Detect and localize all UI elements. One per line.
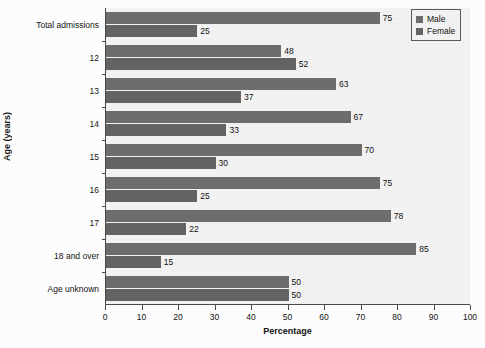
- bar-value-male-2: 63: [338, 79, 349, 89]
- x-axis-tick-10: [470, 305, 471, 310]
- y-axis-label-7: 18 and over: [54, 251, 99, 261]
- legend-label-male: Male: [427, 14, 445, 24]
- y-axis-label-0: Total admissions: [36, 20, 99, 30]
- y-axis-title: Age (years): [2, 112, 18, 161]
- bar-value-male-5: 75: [382, 178, 393, 188]
- bar-value-male-8: 50: [291, 277, 302, 287]
- y-axis-tick-3: [102, 140, 106, 141]
- x-axis-tick-7: [361, 305, 362, 310]
- bar-value-female-4: 30: [218, 158, 229, 168]
- bar-male-8: [106, 276, 289, 288]
- x-axis-tick-1: [142, 305, 143, 310]
- x-axis-tick-label-6: 60: [319, 312, 328, 322]
- y-axis-label-4: 15: [90, 152, 99, 162]
- legend-swatch-female-icon: [416, 28, 423, 35]
- y-axis-tick-6: [102, 239, 106, 240]
- bar-value-male-3: 67: [353, 112, 364, 122]
- bar-value-male-1: 48: [283, 46, 294, 56]
- bar-female-4: [106, 157, 216, 169]
- y-axis-label-3: 14: [90, 119, 99, 129]
- bar-value-female-8: 50: [291, 290, 302, 300]
- bar-male-7: [106, 243, 416, 255]
- bar-value-female-5: 25: [199, 191, 210, 201]
- bar-value-female-7: 15: [163, 257, 174, 267]
- bar-value-male-0: 75: [382, 13, 393, 23]
- x-axis-tick-6: [324, 305, 325, 310]
- bar-value-male-7: 85: [418, 244, 429, 254]
- bar-male-3: [106, 111, 351, 123]
- x-axis-tick-3: [215, 305, 216, 310]
- bar-female-1: [106, 58, 296, 70]
- x-axis-title: Percentage: [105, 326, 470, 336]
- x-axis-tick-5: [288, 305, 289, 310]
- y-axis-label-2: 13: [90, 86, 99, 96]
- x-axis-tick-label-4: 40: [246, 312, 255, 322]
- legend-item-female: Female: [416, 25, 455, 37]
- bar-male-0: [106, 12, 380, 24]
- y-axis-tick-0: [102, 41, 106, 42]
- x-axis-tick-8: [397, 305, 398, 310]
- bar-chart-figure: Age (years) Total admissions121314151617…: [0, 0, 485, 348]
- bar-value-male-6: 78: [393, 211, 404, 221]
- y-axis-tick-2: [102, 107, 106, 108]
- y-axis-tick-4: [102, 173, 106, 174]
- x-axis-tick-label-1: 10: [137, 312, 146, 322]
- bar-female-0: [106, 25, 197, 37]
- y-axis-label-1: 12: [90, 53, 99, 63]
- x-axis-tick-label-5: 50: [283, 312, 292, 322]
- bar-value-female-0: 25: [199, 26, 210, 36]
- bar-female-6: [106, 223, 186, 235]
- x-axis-tick-4: [251, 305, 252, 310]
- x-axis-tick-label-9: 90: [429, 312, 438, 322]
- legend-swatch-male-icon: [416, 16, 423, 23]
- x-axis-tick-label-7: 70: [356, 312, 365, 322]
- chart-legend: Male Female: [411, 9, 461, 41]
- bar-female-3: [106, 124, 226, 136]
- y-axis-label-8: Age unknown: [47, 284, 99, 294]
- y-axis-tick-7: [102, 272, 106, 273]
- bar-female-5: [106, 190, 197, 202]
- x-axis-tick-2: [178, 305, 179, 310]
- bar-value-male-4: 70: [364, 145, 375, 155]
- y-axis-tick-5: [102, 206, 106, 207]
- y-axis-category-labels: Total admissions12131415161718 and overA…: [18, 8, 102, 305]
- bar-female-2: [106, 91, 241, 103]
- bar-value-female-2: 37: [243, 92, 254, 102]
- bar-male-6: [106, 210, 391, 222]
- plot-inner: 752548526337673370307525782285155050: [106, 8, 470, 304]
- y-axis-label-5: 16: [90, 185, 99, 195]
- bar-male-5: [106, 177, 380, 189]
- x-axis-tick-label-8: 80: [392, 312, 401, 322]
- legend-item-male: Male: [416, 13, 455, 25]
- x-axis-tick-9: [434, 305, 435, 310]
- bar-female-8: [106, 289, 289, 301]
- plot-area: 752548526337673370307525782285155050: [105, 8, 470, 305]
- x-axis-tick-label-10: 100: [463, 312, 477, 322]
- bar-male-2: [106, 78, 336, 90]
- bar-male-4: [106, 144, 362, 156]
- x-axis-tick-label-2: 20: [173, 312, 182, 322]
- y-axis-tick-1: [102, 74, 106, 75]
- bar-value-female-6: 22: [188, 224, 199, 234]
- x-axis: Percentage 0102030405060708090100: [105, 305, 470, 347]
- bar-female-7: [106, 256, 161, 268]
- bar-male-1: [106, 45, 281, 57]
- x-axis-tick-0: [105, 305, 106, 310]
- bar-value-female-3: 33: [228, 125, 239, 135]
- bar-value-female-1: 52: [298, 59, 309, 69]
- x-axis-tick-label-0: 0: [103, 312, 108, 322]
- x-axis-tick-label-3: 30: [210, 312, 219, 322]
- y-axis-label-6: 17: [90, 218, 99, 228]
- legend-label-female: Female: [427, 26, 455, 36]
